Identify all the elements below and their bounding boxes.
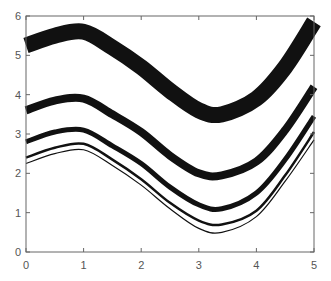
x-tick-label: 1 [81,259,87,271]
y-tick-label: 4 [15,89,21,101]
y-tick-label: 3 [15,128,21,140]
x-tick-label: 2 [138,259,144,271]
y-tick-label: 6 [15,10,21,22]
y-axis: 0123456 [15,10,314,258]
x-tick-label: 5 [311,259,317,271]
plot-lines [26,22,314,233]
y-tick-label: 0 [15,246,21,258]
y-tick-label: 1 [15,207,21,219]
y-tick-label: 2 [15,167,21,179]
x-tick-label: 4 [253,259,259,271]
line-chart: 012345 0123456 [0,0,331,281]
x-tick-label: 3 [196,259,202,271]
axes-box [26,16,314,252]
x-tick-label: 0 [23,259,29,271]
y-tick-label: 5 [15,49,21,61]
